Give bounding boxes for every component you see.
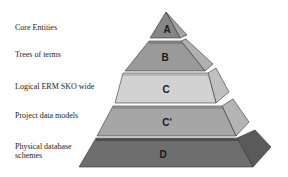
tier-d-letter: D: [159, 149, 166, 160]
pyramid-diagram: D C' C B A: [0, 0, 288, 177]
tier-b-letter: B: [161, 52, 168, 63]
tier-c-prime-letter: C': [162, 117, 172, 128]
tier-c: C: [115, 68, 229, 103]
tier-b: B: [125, 39, 213, 71]
tier-a-letter: A: [163, 24, 170, 35]
tier-a: A: [150, 12, 187, 38]
tier-c-letter: C: [162, 84, 169, 95]
tier-c-prime: C': [97, 99, 249, 136]
